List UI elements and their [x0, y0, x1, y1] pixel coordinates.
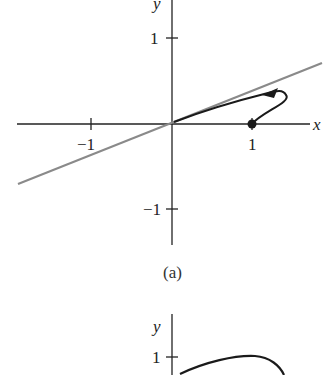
y-tick-label-1: 1	[150, 29, 159, 48]
start-point-dot	[248, 120, 257, 129]
y-axis-label-b: y	[151, 317, 161, 336]
y-tick-label-neg1: −1	[143, 200, 161, 219]
x-axis-label-a: x	[312, 115, 321, 134]
x-tick-label-neg1: −1	[77, 135, 95, 154]
y-tick-label-1-b: 1	[152, 348, 161, 367]
figure-a-caption: (a)	[0, 263, 329, 283]
figure-a: y x 1 −1 −1 1	[17, 0, 322, 245]
x-tick-label-1: 1	[248, 135, 257, 154]
y-axis-label-a: y	[151, 0, 161, 13]
curve-b	[180, 356, 284, 375]
figure-b: y 1	[151, 314, 284, 375]
diagram-canvas: y x 1 −1 −1 1 y 1	[0, 0, 329, 375]
